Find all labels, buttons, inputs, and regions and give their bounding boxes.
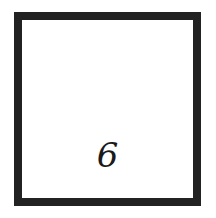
card-numeral: 6	[22, 138, 193, 172]
bordered-card: 6	[14, 12, 201, 206]
